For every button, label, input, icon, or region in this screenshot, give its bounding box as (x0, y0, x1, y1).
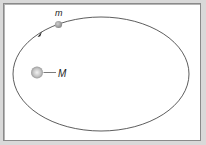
small-mass-m (55, 21, 62, 28)
large-mass-M (31, 67, 43, 79)
large-mass-label: M (58, 68, 67, 79)
small-mass-label: m (55, 8, 63, 18)
orbit-diagram: m M (0, 0, 206, 145)
